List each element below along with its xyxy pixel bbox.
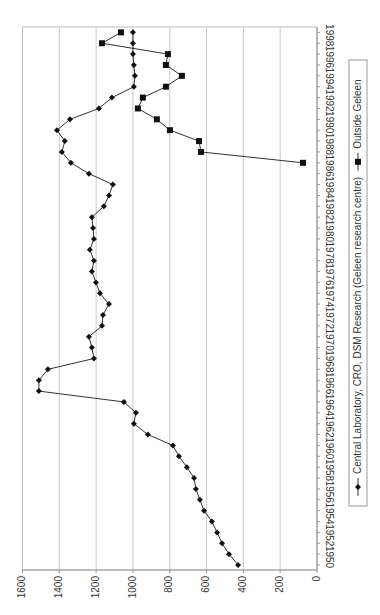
square-marker (140, 95, 146, 101)
year-tick-label: 1976 (324, 263, 335, 286)
year-tick-label: 1996 (324, 46, 335, 69)
year-tick-label: 1950 (324, 546, 335, 569)
year-tick-label: 1984 (324, 176, 335, 199)
legend-label: Outside Geleen (352, 79, 363, 149)
diamond-marker (87, 247, 93, 253)
square-marker (118, 29, 124, 35)
diamond-marker (131, 84, 137, 90)
diamond-marker (86, 171, 92, 177)
year-tick-label: 1974 (324, 285, 335, 308)
year-tick-label: 1966 (324, 372, 335, 395)
legend-label: Central Laboratory, CRO, DSM Research (G… (352, 177, 363, 474)
diamond-marker (197, 497, 203, 503)
square-marker (167, 127, 173, 133)
year-tick-label: 1972 (324, 307, 335, 330)
series-line (39, 32, 238, 565)
diamond-marker (106, 192, 112, 198)
year-tick-label: 1990 (324, 111, 335, 134)
value-tick-label: 200 (274, 576, 285, 593)
diamond-marker (130, 51, 136, 57)
legend-item: Central Laboratory, CRO, DSM Research (G… (352, 177, 363, 496)
series-outside-geleen (99, 29, 306, 165)
square-marker (165, 51, 171, 57)
square-marker (99, 40, 105, 46)
value-tick-label: 0 (311, 576, 322, 582)
square-marker (355, 159, 361, 165)
diamond-marker (131, 62, 137, 68)
year-tick-label: 1968 (324, 350, 335, 373)
gridlines (23, 27, 318, 570)
square-marker (300, 160, 306, 166)
year-tick-label: 1988 (324, 133, 335, 156)
year-tick-label: 1994 (324, 68, 335, 91)
diamond-marker (100, 312, 106, 318)
square-marker (198, 149, 204, 155)
year-tick-label: 1970 (324, 328, 335, 351)
year-tick-label: 1998 (324, 24, 335, 47)
year-tick-label: 1954 (324, 502, 335, 525)
year-tick-label: 1980 (324, 220, 335, 243)
square-marker (135, 105, 141, 111)
year-tick-label: 1952 (324, 524, 335, 547)
year-tick-label: 1960 (324, 437, 335, 460)
square-marker (196, 138, 202, 144)
year-tick-label: 1982 (324, 198, 335, 221)
year-tick-label: 1992 (324, 89, 335, 112)
diamond-marker (36, 388, 42, 394)
line-chart: 02004006008001000120014001600 1950195219… (0, 0, 380, 615)
year-tick-label: 1962 (324, 415, 335, 438)
year-tick-label: 1958 (324, 459, 335, 482)
value-tick-label: 1400 (53, 576, 64, 599)
year-tick-label: 1986 (324, 155, 335, 178)
diamond-marker (90, 225, 96, 231)
diamond-marker (89, 345, 95, 351)
diamond-marker (191, 475, 197, 481)
square-marker (154, 116, 160, 122)
chart: 02004006008001000120014001600 1950195219… (0, 0, 380, 615)
diamond-marker (214, 529, 220, 535)
diamond-marker (170, 442, 176, 448)
year-tick-label: 1956 (324, 481, 335, 504)
square-marker (163, 62, 169, 68)
value-tick-label: 1200 (90, 576, 101, 599)
value-tick-label: 400 (237, 576, 248, 593)
square-marker (179, 73, 185, 79)
value-tick-label: 1000 (127, 576, 138, 599)
diamond-marker (193, 486, 199, 492)
legend: Central Laboratory, CRO, DSM Research (G… (349, 60, 367, 506)
value-tick-label: 1600 (16, 576, 27, 599)
diamond-marker (89, 269, 95, 275)
value-tick-label: 800 (163, 576, 174, 593)
diamond-marker (110, 182, 116, 188)
year-axis-ticks: 1950195219541956195819601962196419661968… (317, 24, 335, 570)
diamond-marker (93, 279, 99, 285)
year-tick-label: 1964 (324, 394, 335, 417)
square-marker (163, 84, 169, 90)
diamond-marker (219, 540, 225, 546)
diamond-marker (130, 40, 136, 46)
diamond-marker (130, 29, 136, 35)
value-tick-label: 600 (200, 576, 211, 593)
value-axis-ticks: 02004006008001000120014001600 (16, 570, 322, 598)
year-tick-label: 1978 (324, 242, 335, 265)
series (36, 29, 306, 568)
